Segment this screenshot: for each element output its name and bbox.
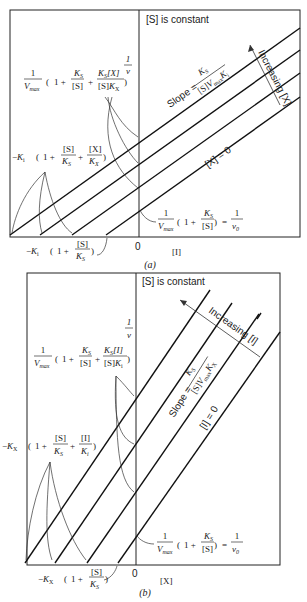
svg-text:(: ( (55, 354, 58, 364)
zero-line (106, 97, 300, 235)
x-axis-label: [X] (160, 576, 173, 586)
svg-text:[S]: [S] (202, 221, 213, 231)
diagram: [S] is constant 1 v Slope = KS [S]VmaxKi… (0, 0, 307, 602)
y-intercept-label: 1 Vmax ( 1 + KS [S] + KS[I] [S]Ki ) (34, 345, 130, 369)
svg-text:1: 1 (41, 345, 46, 355)
svg-text:KS: KS (203, 531, 213, 542)
svg-text:): ) (103, 152, 106, 162)
svg-text:KS: KS (195, 64, 210, 79)
svg-text:=: = (222, 540, 227, 550)
svg-text:1: 1 (164, 208, 169, 218)
svg-text:Slope =: Slope = (165, 81, 199, 110)
svg-text:[S]: [S] (55, 433, 66, 443)
svg-text:[S]VmaxKX: [S]VmaxKX (189, 358, 218, 396)
svg-text:): ) (214, 217, 217, 227)
svg-text:): ) (93, 441, 96, 451)
svg-text:[S]: [S] (80, 358, 91, 368)
zero-line-label: [I] = 0 (197, 403, 220, 431)
svg-text:Vmax: Vmax (34, 358, 50, 369)
svg-text:Vmax: Vmax (24, 81, 40, 92)
svg-text:KS: KS (53, 446, 63, 457)
svg-text:KS: KS (81, 345, 91, 356)
origin-label: 0 (132, 568, 138, 579)
svg-text:): ) (124, 77, 127, 87)
svg-text:1 +: 1 + (184, 217, 196, 227)
svg-text:+: + (95, 354, 100, 364)
svg-text:1 +: 1 + (54, 77, 66, 87)
svg-text:+: + (78, 152, 83, 162)
svg-text:KS[I]: KS[I] (103, 345, 124, 356)
svg-text:(: ( (50, 246, 53, 256)
svg-text:1: 1 (235, 531, 240, 541)
svg-text:1: 1 (126, 54, 131, 64)
svg-text:[S]: [S] (77, 239, 88, 249)
svg-text:v: v (126, 66, 130, 76)
svg-text:1 +: 1 + (57, 246, 69, 256)
svg-text:1 +: 1 + (43, 152, 55, 162)
x-intercept-upper-label: −Ki ( 1 + [S] KS + [X] KX ) (12, 144, 106, 167)
svg-text:(: ( (177, 217, 180, 227)
svg-text:(: ( (36, 152, 39, 162)
svg-text:[S]: [S] (63, 144, 74, 154)
caption-b: (b) (139, 587, 151, 599)
svg-text:KS: KS (203, 208, 213, 219)
svg-text:1 +: 1 + (35, 441, 47, 451)
svg-text:[S]Ki: [S]Ki (104, 358, 123, 369)
svg-text:KS: KS (75, 251, 85, 262)
svg-text:=: = (222, 217, 227, 227)
svg-text:KS: KS (61, 156, 71, 167)
svg-text:[S]: [S] (72, 81, 83, 91)
svg-text:(: ( (46, 77, 49, 87)
svg-text:): ) (127, 354, 130, 364)
svg-text:v0: v0 (232, 221, 239, 232)
svg-text:[S]KX: [S]KX (98, 81, 120, 92)
svg-text:−KX: −KX (38, 574, 54, 585)
base-intercept-label: 1 Vmax ( 1 + KS [S] ) = 1 v0 (157, 531, 243, 555)
zero-line-label: [X] = 0 (203, 144, 234, 170)
svg-text:1: 1 (163, 531, 168, 541)
base-intercept-label: 1 Vmax ( 1 + KS [S] ) = 1 v0 (158, 208, 243, 232)
panel-b: [S] is constant 1 v Slope = KS [S]VmaxKX… (2, 273, 280, 599)
svg-text:Vmax: Vmax (157, 544, 173, 555)
svg-text:−Ki: −Ki (12, 152, 25, 163)
caption-a: (a) (144, 259, 156, 271)
constant-label: [S] is constant (142, 276, 205, 287)
svg-text:v0: v0 (232, 544, 239, 555)
svg-text:+: + (88, 77, 93, 87)
x-axis-label: [I] (172, 247, 181, 257)
svg-text:): ) (105, 574, 108, 584)
zero-line (118, 332, 280, 563)
svg-text:1: 1 (127, 317, 132, 327)
svg-text:(: ( (64, 574, 67, 584)
svg-text:): ) (91, 246, 94, 256)
x-intercept-upper-label: −KX ( 1 + [S] KS + [I] Ki ) (2, 433, 96, 457)
svg-text:−KX: −KX (2, 441, 18, 452)
svg-text:): ) (214, 540, 217, 550)
svg-text:(: ( (28, 441, 31, 451)
constant-label: [S] is constant (146, 14, 209, 25)
svg-text:KX: KX (88, 156, 99, 167)
svg-text:(: ( (177, 540, 180, 550)
x-intercept-lower-label: −KX ( 1 + [S] KS ) (38, 567, 108, 590)
svg-text:[I]: [I] (81, 433, 90, 443)
svg-text:1: 1 (235, 208, 240, 218)
increasing-label: Increasing [I] (207, 305, 260, 347)
svg-text:KS[X]: KS[X] (97, 68, 120, 79)
svg-text:1 +: 1 + (184, 540, 196, 550)
svg-text:1 +: 1 + (62, 354, 74, 364)
svg-text:+: + (70, 441, 75, 451)
origin-label: 0 (135, 241, 141, 252)
svg-text:1: 1 (31, 68, 36, 78)
svg-text:v: v (127, 330, 131, 340)
svg-text:[S]: [S] (91, 567, 102, 577)
panel-a: [S] is constant 1 v Slope = KS [S]VmaxKi… (10, 10, 300, 271)
svg-text:KS: KS (89, 579, 99, 590)
x-intercept-lower-label: −Ki ( 1 + [S] KS ) (26, 239, 94, 262)
svg-text:[X]: [X] (89, 144, 102, 154)
y-intercept-label: 1 Vmax ( 1 + KS [S] + KS[X] [S]KX ) (24, 68, 127, 92)
svg-text:KS: KS (73, 68, 83, 79)
svg-text:Ki: Ki (80, 446, 89, 457)
svg-text:−Ki: −Ki (26, 246, 39, 257)
panel-a-frame (10, 10, 300, 237)
svg-text:[S]: [S] (202, 544, 213, 554)
